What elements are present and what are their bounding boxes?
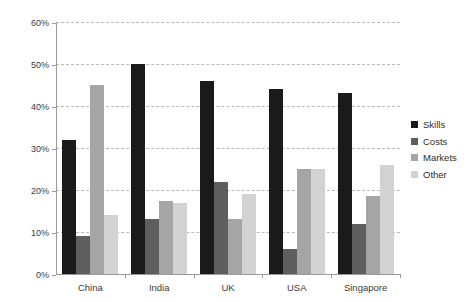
- x-axis-label: USA: [287, 283, 307, 293]
- bar-group: India: [125, 22, 194, 274]
- bar-other[interactable]: [242, 194, 256, 274]
- y-axis-tick: [52, 275, 56, 276]
- legend-item-costs[interactable]: Costs: [411, 137, 457, 147]
- bar-markets[interactable]: [90, 85, 104, 274]
- bar-markets[interactable]: [297, 169, 311, 274]
- x-axis-label: India: [149, 283, 170, 293]
- bar-costs[interactable]: [214, 182, 228, 274]
- x-axis-label: China: [78, 283, 103, 293]
- bar-markets[interactable]: [228, 219, 242, 274]
- legend-swatch-icon: [411, 154, 418, 161]
- plot-area: 0%10%20%30%40%50%60% ChinaIndiaUKUSASing…: [56, 22, 400, 274]
- y-axis-label: 10%: [31, 229, 49, 238]
- bar-costs[interactable]: [145, 219, 159, 274]
- bar-chart: 0%10%20%30%40%50%60% ChinaIndiaUKUSASing…: [0, 0, 475, 302]
- legend-label: Other: [423, 170, 447, 180]
- legend-swatch-icon: [411, 121, 418, 128]
- legend-label: Skills: [423, 120, 445, 130]
- y-axis-label: 40%: [31, 103, 49, 112]
- bar-other[interactable]: [104, 215, 118, 274]
- bar-costs[interactable]: [352, 224, 366, 274]
- chart-legend: SkillsCostsMarketsOther: [411, 120, 457, 179]
- bar-other[interactable]: [173, 203, 187, 274]
- bar-markets[interactable]: [366, 196, 380, 274]
- y-axis-label: 60%: [31, 19, 49, 28]
- x-axis-tick: [262, 274, 263, 278]
- bar-group: UK: [194, 22, 263, 274]
- bar-other[interactable]: [380, 165, 394, 274]
- bar-skills[interactable]: [269, 89, 283, 274]
- legend-label: Markets: [423, 153, 457, 163]
- legend-swatch-icon: [411, 171, 418, 178]
- x-axis-tick: [331, 274, 332, 278]
- y-axis-line: [56, 22, 57, 274]
- y-axis-label: 50%: [31, 61, 49, 70]
- legend-item-markets[interactable]: Markets: [411, 153, 457, 163]
- bar-skills[interactable]: [131, 64, 145, 274]
- bars: [125, 22, 194, 274]
- bar-group: Singapore: [331, 22, 400, 274]
- legend-swatch-icon: [411, 138, 418, 145]
- bar-markets[interactable]: [159, 201, 173, 275]
- bar-costs[interactable]: [76, 236, 90, 274]
- legend-item-other[interactable]: Other: [411, 170, 457, 180]
- bar-skills[interactable]: [62, 140, 76, 274]
- bars: [331, 22, 400, 274]
- bars: [194, 22, 263, 274]
- x-axis-tick: [400, 274, 401, 278]
- bar-skills[interactable]: [200, 81, 214, 274]
- x-axis-baseline: 0%: [56, 274, 400, 275]
- x-axis-label: UK: [221, 283, 234, 293]
- y-axis-label: 20%: [31, 187, 49, 196]
- bars: [56, 22, 125, 274]
- bar-skills[interactable]: [338, 93, 352, 274]
- bar-group: China: [56, 22, 125, 274]
- legend-label: Costs: [423, 137, 447, 147]
- x-axis-label: Singapore: [344, 283, 387, 293]
- y-axis-label: 30%: [31, 145, 49, 154]
- legend-item-skills[interactable]: Skills: [411, 120, 457, 130]
- x-axis-tick: [125, 274, 126, 278]
- bars: [262, 22, 331, 274]
- bar-costs[interactable]: [283, 249, 297, 274]
- bar-other[interactable]: [311, 169, 325, 274]
- bar-group: USA: [262, 22, 331, 274]
- x-axis-tick: [194, 274, 195, 278]
- y-axis-label: 0%: [36, 271, 49, 280]
